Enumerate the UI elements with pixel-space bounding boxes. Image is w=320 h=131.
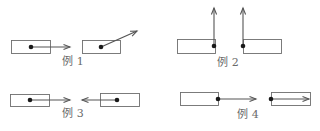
example-1-group [12,31,138,54]
point-of-application-dot [269,97,274,102]
example-3-label: 例 3 [62,108,84,119]
point-of-application-dot [99,45,104,50]
point-of-application-dot [115,98,120,103]
object-box [178,40,216,54]
point-of-application-dot [212,44,217,49]
object-box [244,40,282,54]
point-of-application-dot [216,97,221,102]
example-4-label: 例 4 [237,109,259,120]
object-box [181,93,219,106]
figure-canvas: 例 1 例 2 例 3 例 4 [0,0,320,131]
example-4-group [181,93,311,106]
example-2-group [178,8,282,54]
example-2-label: 例 2 [217,57,239,68]
vector-diagram [0,0,320,131]
example-1-label: 例 1 [62,56,84,67]
point-of-application-dot [241,44,246,49]
point-of-application-dot [29,45,34,50]
point-of-application-dot [28,98,33,103]
example-3-group [11,94,140,107]
